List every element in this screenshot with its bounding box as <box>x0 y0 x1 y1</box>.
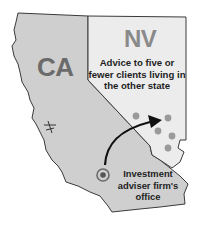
office-marker-icon <box>97 169 109 181</box>
ca-nv-diagram: CA NV Advice to five or fewer clients li… <box>0 0 199 230</box>
office-annotation: Investment adviser firm's office <box>112 168 184 203</box>
client-dot <box>165 115 172 122</box>
ca-label: CA <box>37 52 74 83</box>
nv-label: NV <box>124 25 156 53</box>
client-dot <box>133 113 140 120</box>
client-dot <box>169 133 176 140</box>
nv-annotation: Advice to five or fewer clients living i… <box>86 57 188 92</box>
client-dot <box>155 128 162 135</box>
client-dot <box>165 145 172 152</box>
